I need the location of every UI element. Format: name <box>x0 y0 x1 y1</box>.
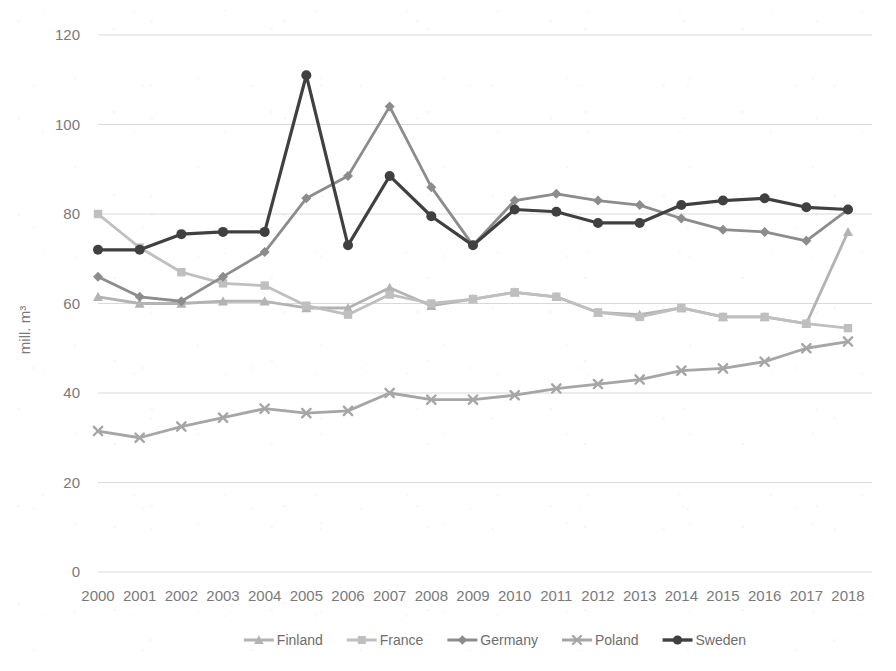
data-point-marker-square <box>344 310 352 318</box>
x-tick-label: 2017 <box>790 587 823 604</box>
x-tick-label: 2007 <box>373 587 406 604</box>
y-tick-label: 20 <box>63 474 80 491</box>
data-point-marker-circle <box>551 207 561 217</box>
x-tick-label: 2005 <box>290 587 323 604</box>
data-point-marker-square <box>802 319 810 327</box>
x-tick-label: 2018 <box>831 587 864 604</box>
y-tick-label: 80 <box>63 205 80 222</box>
data-point-marker-circle <box>760 193 770 203</box>
data-point-marker-circle <box>468 240 478 250</box>
data-point-marker-circle <box>510 205 520 215</box>
data-point-marker-square <box>510 288 518 296</box>
chart-container: 020406080100120 200020012002200320042005… <box>0 0 896 671</box>
x-tick-label: 2009 <box>456 587 489 604</box>
x-tick-label: 2011 <box>540 587 572 604</box>
data-point-marker-square <box>677 304 685 312</box>
legend-label: Poland <box>595 632 639 648</box>
x-tick-label: 2015 <box>706 587 739 604</box>
data-point-marker-circle <box>801 202 811 212</box>
data-point-marker-circle <box>301 70 311 80</box>
data-point-marker-circle <box>218 227 228 237</box>
data-point-marker-circle <box>676 200 686 210</box>
legend-label: Finland <box>277 632 323 648</box>
data-point-marker-square <box>358 636 366 644</box>
data-point-marker-circle <box>385 171 395 181</box>
data-point-marker-square <box>427 299 435 307</box>
x-tick-label: 2016 <box>748 587 781 604</box>
data-point-marker-circle <box>176 229 186 239</box>
data-point-marker-square <box>385 290 393 298</box>
data-point-marker-circle <box>343 240 353 250</box>
y-tick-label: 60 <box>63 295 80 312</box>
data-point-marker-square <box>469 295 477 303</box>
data-point-marker-square <box>635 313 643 321</box>
chart-background <box>0 0 896 671</box>
data-point-marker-square <box>552 293 560 301</box>
x-tick-label: 2006 <box>331 587 364 604</box>
y-tick-label: 120 <box>55 26 80 43</box>
data-point-marker-circle <box>843 205 853 215</box>
x-tick-label: 2004 <box>248 587 281 604</box>
legend-label: Sweden <box>696 632 747 648</box>
x-tick-label: 2008 <box>415 587 448 604</box>
data-point-marker-square <box>760 313 768 321</box>
data-point-marker-square <box>177 268 185 276</box>
data-point-marker-square <box>302 302 310 310</box>
data-point-marker-circle <box>426 211 436 221</box>
data-point-marker-square <box>844 324 852 332</box>
data-point-marker-circle <box>593 218 603 228</box>
y-tick-label: 100 <box>55 116 80 133</box>
legend-label: France <box>380 632 424 648</box>
data-point-marker-square <box>594 308 602 316</box>
y-tick-label: 40 <box>63 384 80 401</box>
x-tick-label: 2003 <box>206 587 239 604</box>
data-point-marker-square <box>260 281 268 289</box>
x-tick-label: 2002 <box>165 587 198 604</box>
data-point-marker-square <box>94 210 102 218</box>
data-point-marker-circle <box>260 227 270 237</box>
legend-label: Germany <box>480 632 538 648</box>
y-axis-title: mill. m³ <box>16 306 33 354</box>
x-tick-label: 2000 <box>81 587 114 604</box>
x-tick-label: 2010 <box>498 587 531 604</box>
y-tick-label: 0 <box>72 563 80 580</box>
data-point-marker-circle <box>673 635 682 644</box>
data-point-marker-circle <box>718 196 728 206</box>
line-chart: 020406080100120 200020012002200320042005… <box>0 0 896 671</box>
data-point-marker-circle <box>635 218 645 228</box>
data-point-marker-square <box>719 313 727 321</box>
x-tick-label: 2013 <box>623 587 656 604</box>
x-tick-label: 2014 <box>665 587 698 604</box>
data-point-marker-circle <box>93 245 103 255</box>
x-tick-label: 2012 <box>581 587 614 604</box>
data-point-marker-circle <box>135 245 145 255</box>
x-tick-label: 2001 <box>123 587 156 604</box>
